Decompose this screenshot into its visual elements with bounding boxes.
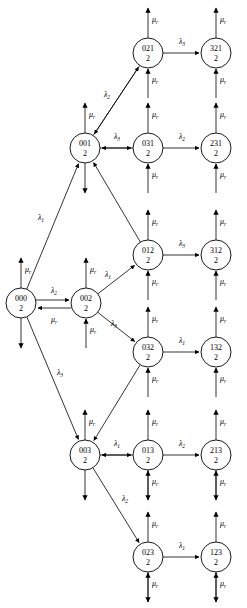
- edge-label-023-123: λ1: [178, 541, 185, 551]
- state-node-312[interactable]: 3122: [201, 240, 231, 270]
- edge-label-000-003: λ3: [56, 368, 63, 378]
- node-sub-213: 2: [214, 456, 218, 465]
- node-id-031: 031: [142, 139, 154, 148]
- state-node-021[interactable]: 0212: [133, 38, 163, 68]
- diagram-svg: 0212321200120312231201223122000200220322…: [0, 0, 247, 608]
- mu-r-label-up-003: μr: [88, 417, 96, 427]
- node-sub-321: 2: [214, 54, 218, 63]
- mu-r-label-low-012: μr: [151, 277, 159, 287]
- edge-label-031-231: λ2: [178, 132, 185, 142]
- mu-r-label-low-231: μr: [219, 170, 227, 180]
- mu-r-label-low-032: μr: [151, 374, 159, 384]
- edge-layer: [21, 8, 216, 602]
- mu-r-label-up-013: μr: [151, 417, 159, 427]
- state-node-321[interactable]: 3212: [201, 38, 231, 68]
- edge-label-013-213: λ2: [178, 439, 185, 449]
- state-node-032[interactable]: 0322: [133, 337, 163, 367]
- mu-r-label-low-132: μr: [219, 374, 227, 384]
- edge-000-001: [27, 164, 79, 289]
- mu-r-label-up-032: μr: [151, 314, 159, 324]
- node-sub-123: 2: [214, 558, 218, 567]
- mu-r-label-up-023: μr: [151, 519, 159, 529]
- mu-r-label-up-001: μr: [88, 110, 96, 120]
- node-sub-231: 2: [214, 149, 218, 158]
- mu-r-label-up-321: μr: [219, 15, 227, 25]
- node-id-012: 012: [142, 246, 154, 255]
- node-layer: 0212321200120312231201223122000200220322…: [6, 38, 231, 572]
- node-sub-002: 2: [84, 304, 88, 313]
- label-layer: μrμrμrμrμrμrμrμrμrμrμrμrμrμrμrμrμrμrμrμr…: [24, 15, 227, 589]
- state-node-123[interactable]: 1232: [201, 542, 231, 572]
- mu-r-label-up-012: μr: [151, 217, 159, 227]
- state-node-031[interactable]: 0312: [133, 133, 163, 163]
- node-id-023: 023: [142, 548, 154, 557]
- mu-r-label-low-213: μr: [219, 477, 227, 487]
- edge-label-002-032: λ3: [110, 319, 117, 329]
- mu-r-label-low-321: μr: [219, 75, 227, 85]
- state-node-213[interactable]: 2132: [201, 440, 231, 470]
- state-node-132[interactable]: 1322: [201, 337, 231, 367]
- state-node-002[interactable]: 0022: [71, 288, 101, 318]
- mu-r-label-low-123: μr: [219, 579, 227, 589]
- node-sub-003: 2: [83, 456, 87, 465]
- node-id-021: 021: [142, 44, 154, 53]
- edge-003-023: [93, 468, 139, 543]
- mu-r-label-up-213: μr: [219, 417, 227, 427]
- node-id-032: 032: [142, 343, 154, 352]
- node-id-123: 123: [210, 548, 222, 557]
- node-id-001: 001: [79, 139, 91, 148]
- node-id-231: 231: [210, 139, 222, 148]
- node-id-002: 002: [80, 294, 92, 303]
- state-node-001[interactable]: 0012: [70, 133, 100, 163]
- mu-r-label-up-002: μr: [89, 265, 97, 275]
- node-id-000: 000: [15, 294, 27, 303]
- edge-label-002-000: μr: [50, 315, 58, 325]
- node-sub-031: 2: [146, 149, 150, 158]
- edge-label-021-321: λ3: [178, 37, 185, 47]
- node-id-312: 312: [210, 246, 222, 255]
- node-sub-001: 2: [83, 149, 87, 158]
- edge-label-001-021: λ2: [103, 90, 110, 100]
- edge-label-000-002: λ2: [50, 286, 57, 296]
- mu-r-label-up-231: μr: [219, 110, 227, 120]
- edge-label-032-132: λ1: [178, 336, 185, 346]
- edge-label-001-031: λ3: [113, 132, 120, 142]
- mu-r-label-low-013: μr: [151, 477, 159, 487]
- state-node-231[interactable]: 2312: [201, 133, 231, 163]
- edge-002-012: [98, 265, 135, 293]
- state-node-000[interactable]: 0002: [6, 288, 36, 318]
- node-sub-000: 2: [19, 304, 23, 313]
- node-sub-032: 2: [146, 353, 150, 362]
- node-sub-013: 2: [146, 456, 150, 465]
- mu-r-label-low-021: μr: [151, 75, 159, 85]
- edge-label-012-312: λ3: [178, 239, 185, 249]
- edge-label-000-001: λ1: [37, 213, 44, 223]
- node-sub-312: 2: [214, 256, 218, 265]
- state-node-013[interactable]: 0132: [133, 440, 163, 470]
- reverse-edge-012-001: [94, 163, 141, 242]
- edge-label-002-012: λ1: [104, 270, 111, 280]
- mu-r-label-up-031: μr: [151, 110, 159, 120]
- node-id-321: 321: [210, 44, 222, 53]
- node-id-132: 132: [210, 343, 222, 352]
- state-transition-diagram: 0212321200120312231201223122000200220322…: [0, 0, 247, 608]
- edge-label-003-023: λ2: [121, 494, 128, 504]
- state-node-012[interactable]: 0122: [133, 240, 163, 270]
- mu-r-label-low-023: μr: [151, 579, 159, 589]
- reverse-edge-021-001: [94, 66, 139, 134]
- state-node-003[interactable]: 0032: [70, 440, 100, 470]
- node-id-013: 013: [142, 446, 154, 455]
- node-id-003: 003: [79, 446, 91, 455]
- mu-r-label-up-132: μr: [219, 314, 227, 324]
- mu-r-label-up-312: μr: [219, 217, 227, 227]
- node-sub-023: 2: [146, 558, 150, 567]
- edge-label-003-013: λ1: [113, 439, 120, 449]
- mu-r-label-up-000: μr: [24, 265, 32, 275]
- mu-r-label-up-021: μr: [151, 15, 159, 25]
- edge-000-003: [27, 317, 79, 440]
- reverse-edge-032-003: [94, 365, 140, 441]
- node-id-213: 213: [210, 446, 222, 455]
- node-sub-021: 2: [146, 54, 150, 63]
- mu-r-label-up-123: μr: [219, 519, 227, 529]
- state-node-023[interactable]: 0232: [133, 542, 163, 572]
